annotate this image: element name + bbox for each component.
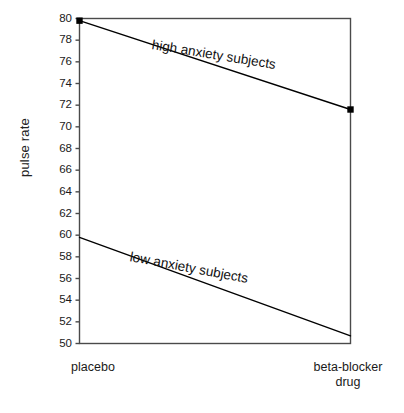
y-tick-label: 62 [48,208,72,220]
bottom-caption-fragment [8,404,398,413]
data-point-marker [76,17,82,23]
top-crop-fragment: . [232,0,252,4]
y-tick-label: 78 [48,34,72,46]
x-axis-label-beta-blocker-drug: beta-blocker drug [292,360,404,390]
y-tick-label: 58 [48,251,72,263]
series-line-low-anxiety [80,237,351,336]
y-tick-label: 64 [48,186,72,198]
y-tick-label: 52 [48,316,72,328]
y-tick-label: 74 [48,78,72,90]
y-tick-label: 72 [48,99,72,111]
y-tick-label: 76 [48,56,72,68]
y-tick-label: 50 [48,338,72,350]
plot-frame [80,19,351,344]
x-axis-label-placebo: placebo [38,360,148,375]
y-tick-label: 68 [48,143,72,155]
y-tick-label: 54 [48,294,72,306]
series-line-high-anxiety [80,21,351,110]
y-tick-label: 60 [48,229,72,241]
y-axis-title: pulse rate [17,88,32,208]
y-tick-label: 66 [48,164,72,176]
y-tick-label: 80 [48,13,72,25]
y-tick-label: 56 [48,273,72,285]
y-axis-tick-labels: 50525456586062646668707274767880 [46,0,72,413]
y-tick-label: 70 [48,121,72,133]
data-point-marker [347,106,353,112]
chart-figure: pulse rate 50525456586062646668707274767… [0,0,404,413]
